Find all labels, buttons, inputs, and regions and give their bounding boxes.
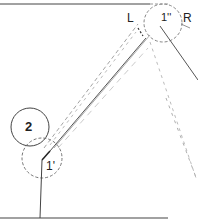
label-2: 2 <box>25 120 32 133</box>
diagram-canvas <box>0 0 198 219</box>
label-L: L <box>127 12 134 24</box>
L-tick-mark <box>138 28 143 36</box>
label-1-prime: 1' <box>46 160 55 172</box>
label-1-double-prime: 1'' <box>161 12 171 23</box>
vertical-stem-line <box>40 160 42 218</box>
dashed-diagonal-right <box>58 48 148 148</box>
second-diagonal-line <box>54 35 150 148</box>
dashed-descending-line <box>150 42 196 178</box>
dashed-circle-1-double-prime <box>144 4 182 42</box>
right-diagonal-line <box>160 26 198 80</box>
label-R: R <box>183 12 192 24</box>
dashed-diagonal-middle <box>50 32 136 145</box>
dashed-diagonal-left <box>44 24 138 148</box>
dashed-descending-line-2 <box>166 98 197 180</box>
main-diagonal-line <box>50 38 146 151</box>
